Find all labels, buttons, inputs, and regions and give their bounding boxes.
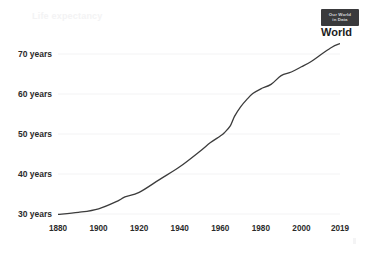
logo-line-2: in Data <box>332 18 347 23</box>
our-world-in-data-logo[interactable]: Our World in Data <box>321 9 359 26</box>
plot-area <box>58 36 340 216</box>
y-tick-label-30: 30 years <box>0 209 52 219</box>
x-tick-label-1920: 1920 <box>130 224 148 233</box>
gridlines <box>58 54 340 214</box>
x-tick-label-1980: 1980 <box>252 224 270 233</box>
corner-artifact <box>353 238 356 244</box>
x-tick-label-1960: 1960 <box>211 224 229 233</box>
series-end-label: World <box>321 26 352 38</box>
x-tick-label-1940: 1940 <box>171 224 189 233</box>
y-tick-label-40: 40 years <box>0 169 52 179</box>
x-tick-label-1880: 1880 <box>49 224 67 233</box>
page-title: Life expectancy <box>32 11 103 21</box>
line-chart-svg <box>58 36 340 216</box>
x-tick-label-2019: 2019 <box>331 224 349 233</box>
series-line-world <box>58 44 340 215</box>
y-tick-label-60: 60 years <box>0 89 52 99</box>
x-tick-label-2000: 2000 <box>292 224 310 233</box>
y-tick-label-50: 50 years <box>0 129 52 139</box>
x-tick-label-1900: 1900 <box>89 224 107 233</box>
life-expectancy-chart: Life expectancy Our World in Data 30 yea… <box>0 0 366 253</box>
y-tick-label-70: 70 years <box>0 49 52 59</box>
